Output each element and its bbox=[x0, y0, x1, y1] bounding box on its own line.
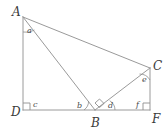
vertex-label-C: C bbox=[153, 59, 162, 73]
right-angle-marker-F bbox=[143, 103, 150, 110]
vertex-label-D: D bbox=[10, 105, 21, 119]
angle-label-c: c bbox=[33, 100, 38, 109]
angle-label-a: a bbox=[27, 26, 32, 35]
geometry-canvas: A D B F C a b c d e f bbox=[0, 0, 168, 132]
angle-label-f: f bbox=[135, 100, 141, 109]
vertex-label-F: F bbox=[151, 112, 161, 126]
angle-label-b: b bbox=[77, 101, 82, 110]
angle-label-e: e bbox=[142, 75, 147, 84]
vertex-label-A: A bbox=[11, 5, 21, 19]
right-angle-marker-D bbox=[23, 103, 30, 110]
angle-label-d: d bbox=[108, 101, 113, 110]
segment-AC bbox=[23, 17, 150, 68]
geometry-figure: A D B F C a b c d e f bbox=[0, 0, 168, 132]
angle-arc-b bbox=[84, 101, 89, 110]
vertex-label-B: B bbox=[90, 116, 100, 130]
